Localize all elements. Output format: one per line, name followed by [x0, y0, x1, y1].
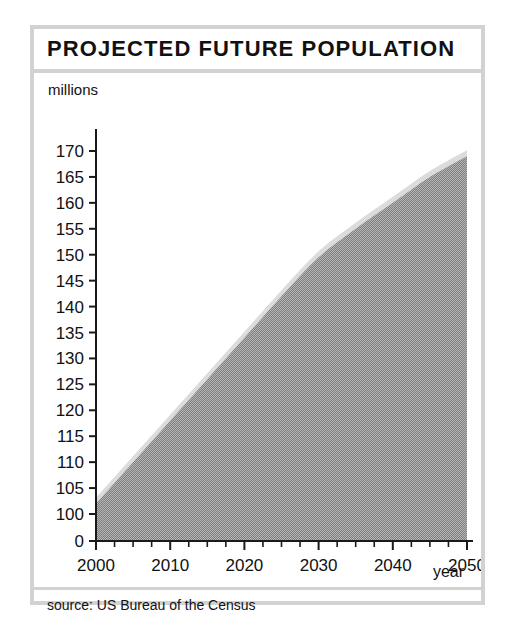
svg-text:110: 110 — [57, 453, 84, 472]
x-axis-ticks — [96, 541, 467, 550]
y-axis-tick-labels: 0100105110115120125130135140145150155160… — [56, 142, 84, 551]
x-axis-title: year — [433, 563, 464, 581]
y-axis-ticks — [89, 151, 96, 541]
svg-text:165: 165 — [56, 168, 84, 187]
plot-area-wrapper: millions 0100105110115120125130135140145… — [34, 73, 481, 601]
page-title: PROJECTED FUTURE POPULATION — [34, 36, 455, 62]
svg-text:2040: 2040 — [374, 556, 412, 575]
svg-text:120: 120 — [56, 401, 84, 420]
source-note: source: US Bureau of the Census — [47, 597, 256, 613]
svg-text:125: 125 — [56, 375, 84, 394]
area-fill-region — [96, 156, 467, 541]
svg-text:145: 145 — [56, 272, 84, 291]
svg-text:2020: 2020 — [225, 556, 263, 575]
svg-text:130: 130 — [56, 349, 84, 368]
svg-text:160: 160 — [56, 194, 84, 213]
x-axis-tick-labels: 200020102020203020402050 — [77, 556, 481, 575]
area-chart-svg: 0100105110115120125130135140145150155160… — [34, 73, 481, 593]
source-divider — [34, 587, 481, 590]
svg-text:105: 105 — [56, 479, 84, 498]
chart-title-bar: PROJECTED FUTURE POPULATION — [34, 29, 481, 73]
svg-text:115: 115 — [57, 427, 84, 446]
svg-text:140: 140 — [56, 298, 84, 317]
svg-text:100: 100 — [56, 505, 84, 524]
svg-text:2000: 2000 — [77, 556, 115, 575]
svg-text:170: 170 — [56, 142, 84, 161]
chart-figure: PROJECTED FUTURE POPULATION millions 010… — [30, 25, 485, 605]
svg-text:150: 150 — [56, 246, 84, 265]
svg-text:155: 155 — [56, 220, 84, 239]
svg-text:2030: 2030 — [300, 556, 338, 575]
svg-text:0: 0 — [75, 532, 84, 551]
svg-text:135: 135 — [56, 324, 84, 343]
svg-text:2010: 2010 — [151, 556, 189, 575]
